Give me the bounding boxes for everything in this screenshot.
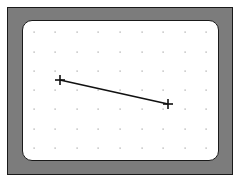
grid-dot [120, 52, 121, 53]
grid-dot [206, 129, 207, 130]
grid-dot [55, 148, 56, 149]
grid-dot [142, 90, 143, 91]
grid-dot [55, 71, 56, 72]
grid-dot [185, 52, 186, 53]
grid-dot [120, 32, 121, 33]
grid-dot [142, 109, 143, 110]
grid-dot [120, 109, 121, 110]
drawing-canvas[interactable] [0, 0, 239, 183]
grid-dot [98, 52, 99, 53]
end-point-crosshair-icon[interactable] [163, 99, 173, 109]
line-segment[interactable] [60, 80, 168, 104]
grid-dot [77, 52, 78, 53]
grid-dot [163, 71, 164, 72]
grid-dot [206, 109, 207, 110]
grid-dot [163, 52, 164, 53]
grid-dot [55, 32, 56, 33]
grid-dot [120, 90, 121, 91]
grid-dot [98, 109, 99, 110]
grid-dot [142, 71, 143, 72]
grid-dot [77, 148, 78, 149]
grid-dot [185, 109, 186, 110]
grid-dot [185, 148, 186, 149]
grid-dot [206, 71, 207, 72]
grid-dot [34, 71, 35, 72]
grid-dot [163, 32, 164, 33]
grid-dot [77, 109, 78, 110]
grid-dot [206, 148, 207, 149]
grid-dot [163, 109, 164, 110]
grid-dot [55, 52, 56, 53]
grid-dot [34, 129, 35, 130]
grid-dot [77, 32, 78, 33]
grid-dot [120, 148, 121, 149]
grid-dot [34, 90, 35, 91]
grid-dot [185, 90, 186, 91]
grid-dot [34, 52, 35, 53]
grid-dot [98, 90, 99, 91]
grid-dot [55, 90, 56, 91]
grid-dot [55, 109, 56, 110]
grid-dot [142, 148, 143, 149]
grid-dot [206, 90, 207, 91]
grid-dot [120, 71, 121, 72]
grid-dot [163, 148, 164, 149]
grid-dot [206, 32, 207, 33]
grid-dot [163, 90, 164, 91]
start-point-crosshair-icon[interactable] [55, 75, 65, 85]
grid-dot [98, 148, 99, 149]
grid-dot [55, 129, 56, 130]
grid-dot [77, 90, 78, 91]
grid-dot [206, 52, 207, 53]
grid-dot [77, 71, 78, 72]
grid-dot [185, 129, 186, 130]
grid-dot [34, 148, 35, 149]
grid-dot [142, 32, 143, 33]
grid-dot [34, 32, 35, 33]
grid-dot [77, 129, 78, 130]
grid-dot [120, 129, 121, 130]
grid-dot [34, 109, 35, 110]
grid-dot [142, 129, 143, 130]
grid-dot [163, 129, 164, 130]
grid-dot [142, 52, 143, 53]
grid-dot [185, 71, 186, 72]
grid-dot [98, 71, 99, 72]
grid-dots [34, 32, 207, 149]
grid-dot [98, 129, 99, 130]
grid-dot [185, 32, 186, 33]
grid-dot [98, 32, 99, 33]
